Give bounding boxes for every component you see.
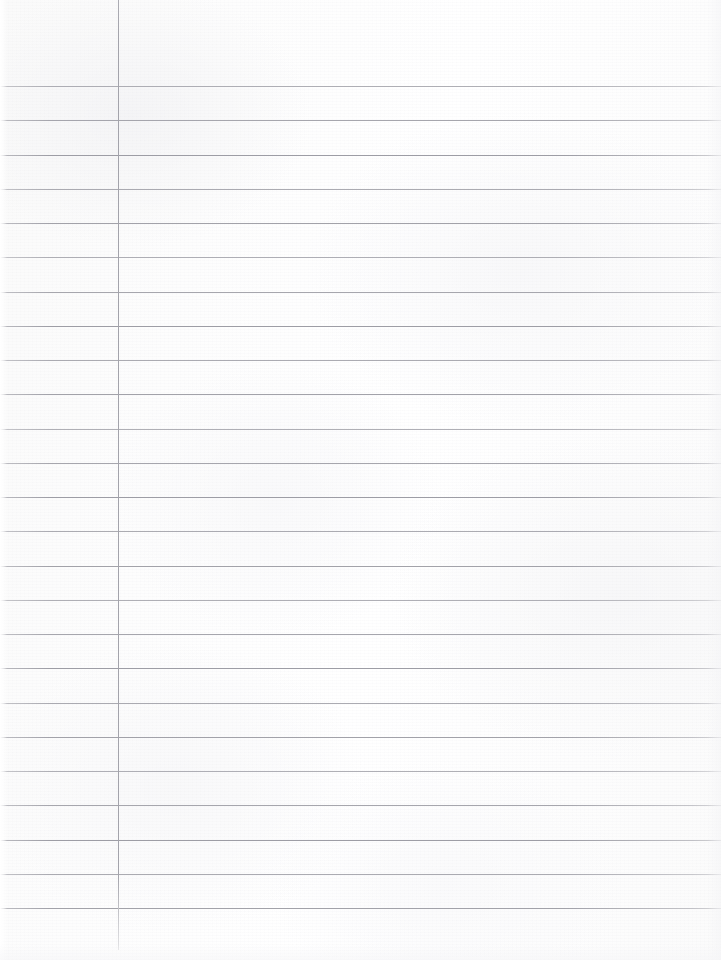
writing-area[interactable] xyxy=(119,0,721,960)
notebook-page xyxy=(0,0,721,960)
paper-left-edge-highlight xyxy=(0,0,7,960)
